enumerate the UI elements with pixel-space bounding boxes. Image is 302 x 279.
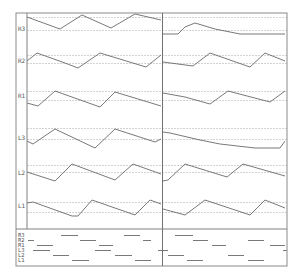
- trace-r1-right: [163, 91, 285, 104]
- trace-r3-left: [27, 14, 161, 29]
- gridlines: [27, 18, 287, 213]
- overview-label: L1: [18, 257, 25, 263]
- overview-strip: [28, 236, 287, 261]
- trace-l3-left: [27, 129, 161, 148]
- waveform-traces: [27, 14, 285, 216]
- trace-l3-right: [163, 132, 285, 148]
- lane-label: R1: [18, 92, 26, 99]
- trace-l2-left: [27, 164, 161, 181]
- trace-r3-right: [163, 23, 285, 34]
- trace-r1-left: [27, 91, 161, 107]
- lane-labels: R3R2R1L3L2L1: [18, 25, 26, 209]
- lane-label: L2: [18, 169, 26, 176]
- lane-label: L1: [18, 202, 26, 209]
- lane-label: L3: [18, 134, 26, 141]
- overview-labels: R3R2R1L3L2L1: [18, 232, 25, 263]
- waveform-chart: R3R2R1L3L2L1 R3R2R1L3L2L1: [0, 0, 302, 279]
- lane-label: R2: [18, 57, 26, 64]
- lane-label: R3: [18, 25, 26, 32]
